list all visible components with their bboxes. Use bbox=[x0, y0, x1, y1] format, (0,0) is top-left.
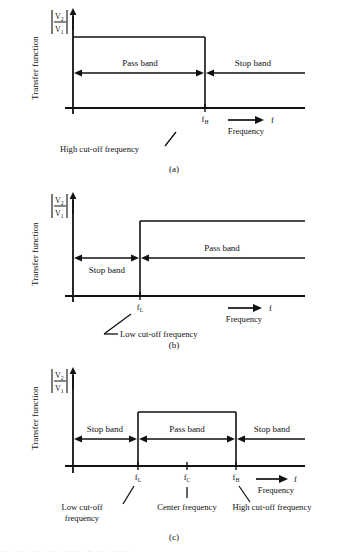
frequency-axis-label: Frequency bbox=[226, 314, 263, 324]
transfer-ratio-symbol: V2 V1 bbox=[52, 194, 67, 219]
panel-caption-b: (b) bbox=[0, 340, 348, 350]
high-cutoff-annotation: High cut-off frequency bbox=[60, 144, 140, 154]
stop-band-left-label: Stop band bbox=[87, 424, 124, 434]
svg-text:V1: V1 bbox=[55, 25, 64, 35]
pass-band-label: Pass band bbox=[204, 243, 240, 253]
high-cutoff-label: fH bbox=[233, 472, 240, 483]
high-pass-plot: Transfer function V2 V1 Stop band bbox=[0, 186, 348, 364]
panel-band-pass: Transfer function V2 V1 Stop band bbox=[0, 364, 348, 548]
stop-band-right-label: Stop band bbox=[254, 424, 291, 434]
pass-band-label: Pass band bbox=[169, 424, 205, 434]
svg-text:V2: V2 bbox=[55, 12, 64, 22]
frequency-axis-label: Frequency bbox=[258, 485, 295, 495]
y-axis-label: Transfer function bbox=[30, 222, 40, 286]
low-cutoff-label: fL bbox=[137, 302, 144, 313]
page-bottom-partial-text: · · · · · · · · · · · · · · ·· · ·· · · … bbox=[0, 548, 348, 556]
stop-band-label: Stop band bbox=[89, 265, 126, 275]
transfer-ratio-symbol: V2 V1 bbox=[52, 10, 67, 35]
low-cutoff-label: fL bbox=[135, 472, 142, 483]
panel-high-pass: Transfer function V2 V1 Stop band bbox=[0, 186, 348, 364]
center-frequency-label: fC bbox=[184, 472, 191, 483]
svg-text:V2: V2 bbox=[55, 196, 64, 206]
low-cutoff-annotation: Low cut-off frequency bbox=[120, 329, 198, 339]
low-pass-plot: Transfer function V2 V1 Pass band bbox=[0, 0, 348, 186]
panel-low-pass: Transfer function V2 V1 Pass band bbox=[0, 0, 348, 186]
low-cutoff-annotation-line1: Low cut-off bbox=[61, 502, 102, 512]
high-cutoff-leader bbox=[239, 486, 250, 502]
svg-text:V1: V1 bbox=[55, 209, 64, 219]
y-axis-label: Transfer function bbox=[30, 36, 40, 100]
frequency-symbol: f bbox=[271, 115, 274, 125]
stop-band-label: Stop band bbox=[235, 58, 272, 68]
center-frequency-annotation: Center frequency bbox=[157, 502, 217, 512]
panel-caption-c: (c) bbox=[0, 532, 348, 542]
y-axis-label: Transfer function bbox=[30, 386, 40, 450]
low-cutoff-annotation-line2: frequency bbox=[65, 513, 100, 523]
frequency-arrow-icon bbox=[256, 475, 288, 483]
frequency-arrow-icon bbox=[228, 116, 264, 124]
frequency-symbol: f bbox=[294, 474, 297, 484]
frequency-axis-label: Frequency bbox=[228, 126, 265, 136]
frequency-symbol: f bbox=[269, 303, 272, 313]
svg-text:V2: V2 bbox=[55, 371, 64, 381]
svg-text:V1: V1 bbox=[55, 384, 64, 394]
low-cutoff-leader bbox=[123, 486, 134, 504]
high-cutoff-label: fH bbox=[202, 114, 209, 125]
pass-band-label: Pass band bbox=[122, 58, 158, 68]
panel-caption-a: (a) bbox=[0, 164, 348, 174]
band-pass-plot: Transfer function V2 V1 Stop band bbox=[0, 364, 348, 548]
annotation-leader bbox=[165, 132, 176, 146]
frequency-arrow-icon bbox=[228, 304, 262, 312]
transfer-ratio-symbol: V2 V1 bbox=[52, 369, 67, 394]
high-cutoff-annotation: High cut-off frequency bbox=[232, 502, 312, 512]
